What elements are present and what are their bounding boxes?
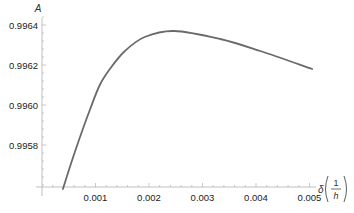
x-tick-label: 0.002	[137, 192, 161, 203]
y-tick-label: 0.9958	[9, 140, 38, 151]
x-tick-label: 0.003	[191, 192, 215, 203]
right-paren-icon	[344, 176, 347, 202]
data-series-line	[63, 31, 312, 189]
y-axis-title: A	[34, 3, 42, 14]
y-axis: 0.99580.99600.99620.9964	[9, 17, 46, 196]
x-axis-title-denominator: h	[333, 191, 338, 201]
line-chart: 0.99580.99600.99620.9964 0.0010.0020.003…	[0, 0, 354, 213]
y-tick-label: 0.9964	[9, 20, 38, 31]
x-axis: 0.0010.0020.0030.0040.005	[36, 183, 321, 203]
y-tick-label: 0.9962	[9, 60, 38, 71]
left-paren-icon	[326, 176, 329, 202]
x-tick-label: 0.004	[244, 192, 268, 203]
x-axis-title: δ 1 h	[318, 176, 347, 202]
x-axis-title-delta: δ	[318, 184, 324, 195]
x-tick-label: 0.001	[84, 192, 108, 203]
x-axis-title-numerator: 1	[333, 178, 338, 188]
y-tick-label: 0.9960	[9, 100, 38, 111]
